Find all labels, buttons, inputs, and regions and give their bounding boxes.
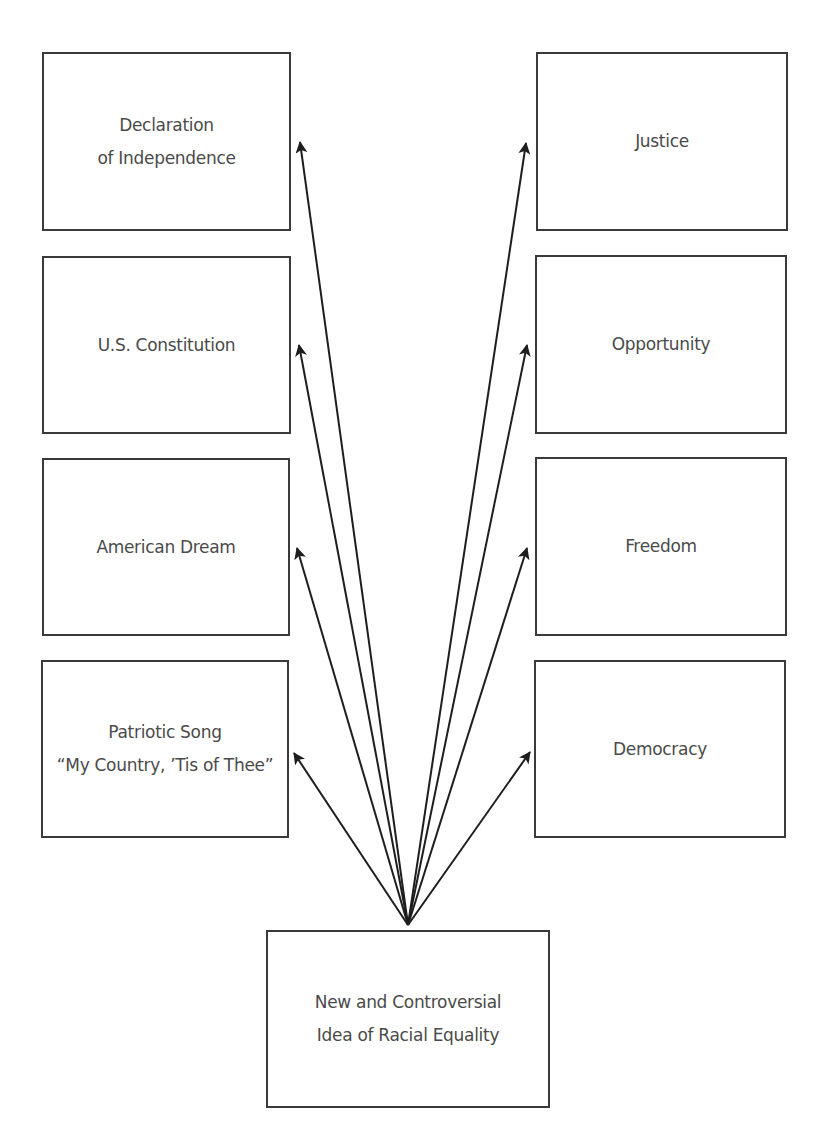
arrow-icon — [408, 752, 530, 925]
arrow-icon — [299, 345, 408, 925]
node-label: Patriotic Song “My Country, ’Tis of Thee… — [57, 716, 273, 782]
node-label: U.S. Constitution — [98, 329, 236, 362]
node-racial-equality-source: New and Controversial Idea of Racial Equ… — [266, 930, 550, 1108]
arrow-icon — [408, 548, 527, 925]
node-justice: Justice — [536, 52, 788, 231]
node-us-constitution: U.S. Constitution — [42, 256, 291, 434]
node-label: Justice — [635, 125, 689, 158]
arrow-icon — [300, 142, 408, 925]
concept-diagram: Declaration of Independence U.S. Constit… — [0, 0, 828, 1148]
arrow-group — [294, 142, 530, 925]
arrow-icon — [294, 753, 408, 925]
node-opportunity: Opportunity — [535, 255, 787, 434]
node-label: New and Controversial Idea of Racial Equ… — [315, 986, 502, 1052]
arrow-icon — [297, 548, 408, 925]
node-declaration-of-independence: Declaration of Independence — [42, 52, 291, 231]
node-label: American Dream — [96, 531, 235, 564]
arrow-icon — [408, 143, 526, 925]
node-label: Opportunity — [612, 328, 711, 361]
node-label: Freedom — [625, 530, 697, 563]
node-american-dream: American Dream — [42, 458, 290, 636]
node-patriotic-song: Patriotic Song “My Country, ’Tis of Thee… — [41, 660, 289, 838]
arrow-icon — [408, 345, 527, 925]
node-democracy: Democracy — [534, 660, 786, 838]
node-label: Democracy — [613, 733, 707, 766]
node-label: Declaration of Independence — [97, 109, 235, 175]
node-freedom: Freedom — [535, 457, 787, 636]
